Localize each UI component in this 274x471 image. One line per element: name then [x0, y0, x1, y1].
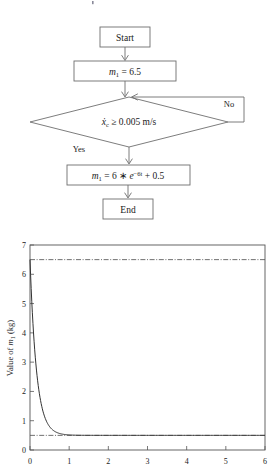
decision-condition: ẋc ≥ 0.005 m/s — [101, 117, 157, 128]
flow-node-start[interactable]: Start — [100, 27, 150, 47]
connector-yes — [126, 147, 132, 164]
plot-frame — [30, 245, 265, 450]
update-exponent: −6t — [134, 170, 143, 177]
y-tick-label-4: 4 — [22, 329, 26, 338]
y-tick-label-5: 5 — [22, 300, 26, 309]
scan-artifact-speck — [92, 1, 94, 4]
chart: 0 1 2 3 4 5 6 7 0 — [5, 241, 267, 466]
branch-label-yes: Yes — [73, 144, 85, 154]
x-tick-label-2: 2 — [106, 457, 110, 466]
x-tick-label-5: 5 — [224, 457, 228, 466]
x-tick-label-3: 3 — [146, 457, 150, 466]
decay-curve — [30, 260, 265, 436]
flowchart: Start m1 = 6.5 ẋc ≥ 0.005 m/s — [30, 27, 244, 219]
y-tick-label-2: 2 — [22, 387, 26, 396]
figure-svg: Start m1 = 6.5 ẋc ≥ 0.005 m/s — [0, 0, 274, 471]
y-tick-label-7: 7 — [22, 241, 26, 250]
y-tick-label-3: 3 — [22, 358, 26, 367]
update-formula: m1 = 6 ∗ e−6t + 0.5 — [92, 170, 165, 182]
x-tick-label-4: 4 — [185, 457, 189, 466]
branch-label-no: No — [224, 99, 234, 109]
x-tick-label-6: 6 — [263, 457, 267, 466]
y-axis: 0 1 2 3 4 5 6 7 — [22, 241, 34, 455]
connector-init-to-decision — [122, 81, 128, 97]
start-label: Start — [116, 33, 134, 43]
flow-node-end[interactable]: End — [103, 199, 153, 219]
flow-node-update[interactable]: m1 = 6 ∗ e−6t + 0.5 — [67, 165, 190, 185]
y-tick-label-6: 6 — [22, 270, 26, 279]
y-axis-title: Value of m1 (kg) — [5, 320, 16, 377]
x-tick-label-0: 0 — [28, 457, 32, 466]
flow-node-init[interactable]: m1 = 6.5 — [74, 61, 176, 81]
x-axis: 0 1 2 3 4 5 6 — [28, 446, 267, 466]
connector-start-to-init — [122, 47, 128, 61]
flow-node-decision[interactable]: ẋc ≥ 0.005 m/s — [30, 97, 228, 147]
y-tick-label-0: 0 — [22, 446, 26, 455]
figure-container: Start m1 = 6.5 ẋc ≥ 0.005 m/s — [0, 0, 274, 471]
y-tick-label-1: 1 — [22, 417, 26, 426]
init-formula: m1 = 6.5 — [109, 67, 141, 78]
connector-update-to-end — [125, 185, 131, 198]
x-ticks — [30, 446, 265, 450]
end-label: End — [120, 205, 136, 215]
x-tick-label-1: 1 — [67, 457, 71, 466]
